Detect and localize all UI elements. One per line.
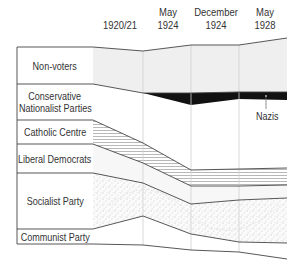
label-text: Communist Party (20, 231, 89, 243)
label-text: Catholic Centre (24, 126, 86, 138)
nazis-annotation: Nazis (256, 110, 279, 122)
label-communist-party: Communist Party (17, 229, 93, 244)
label-text: Conservative (29, 90, 82, 102)
label-text: Socialist Party (26, 195, 83, 207)
band-non-voters (93, 38, 287, 93)
label-text: Non-voters (33, 60, 77, 72)
label-non-voters: Non-voters (17, 47, 93, 84)
label-text: Nationalist Parties (19, 102, 92, 114)
label-catholic-centre: Catholic Centre (17, 120, 93, 144)
nazis-pointer-dot (265, 95, 267, 97)
label-socialist-party: Socialist Party (17, 173, 93, 229)
label-liberal-democrats: Liberal Democrats (17, 144, 93, 173)
label-conservative-nationalist-parties: Conservative Nationalist Parties (17, 84, 93, 120)
label-text: Liberal Democrats (18, 153, 91, 165)
